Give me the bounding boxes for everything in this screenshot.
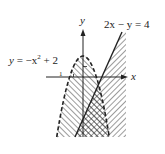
line-equation-text: 2x − y = 4 — [104, 18, 149, 30]
tick-label-1: 1 — [59, 71, 63, 78]
parabola-equation-label: y = −x2 + 2 — [9, 54, 58, 66]
line-equation-label: 2x − y = 4 — [104, 19, 149, 30]
y-axis-label: y — [80, 15, 85, 26]
x-axis-label: x — [131, 71, 136, 82]
y-axis-arrow-icon — [81, 29, 86, 36]
parabola-eq-y: y — [9, 54, 14, 66]
parabola-eq-sup: 2 — [37, 53, 41, 61]
parabola-eq-rest: + 2 — [44, 54, 58, 66]
parabola-eq-mid: = −x — [17, 54, 38, 66]
